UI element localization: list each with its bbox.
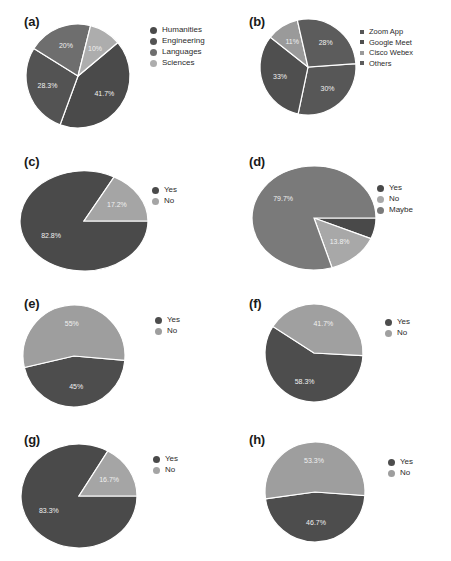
slice-value-label: 82.8%	[41, 232, 61, 239]
slice-value-label: 55%	[65, 320, 79, 327]
slice-value-label: 11%	[285, 38, 299, 45]
legend-item-label: Humanities	[162, 26, 202, 34]
legend-b: Zoom AppGoogle MeetCisco WebexOthers	[360, 28, 413, 67]
legend-item-label: Sciences	[162, 59, 194, 67]
slice-value-label: 53.3%	[304, 457, 324, 464]
legend-item-label: Others	[369, 60, 392, 68]
slice-value-label: 33%	[273, 73, 287, 80]
pie-chart-g: 83.3%16.7%	[19, 442, 139, 550]
legend-item-label: Yes	[167, 316, 180, 324]
slice-value-label: 79.7%	[273, 195, 293, 202]
slice-value-label: 41.7%	[94, 90, 114, 97]
legend-e: YesNo	[155, 316, 180, 335]
pie-slice	[265, 492, 364, 542]
pie-svg-d: 13.8%79.7%	[250, 164, 378, 272]
legend-item-yes[interactable]: Yes	[152, 186, 177, 194]
legend-item-label: Yes	[389, 184, 402, 192]
legend-swatch-icon	[360, 40, 364, 44]
legend-item-yes[interactable]: Yes	[155, 316, 180, 324]
pie-svg-h: 46.7%53.3%	[263, 440, 367, 544]
legend-item-no[interactable]: No	[155, 327, 180, 335]
legend-item-label: No	[164, 197, 174, 205]
legend-swatch-icon	[377, 185, 384, 192]
legend-item-engineering[interactable]: Engineering	[150, 37, 205, 45]
legend-item-yes[interactable]: Yes	[377, 184, 413, 192]
legend-swatch-icon	[155, 328, 162, 335]
legend-item-label: Maybe	[389, 206, 413, 214]
legend-item-no[interactable]: No	[385, 329, 410, 337]
legend-item-label: Zoom App	[369, 28, 403, 36]
slice-value-label: 20%	[59, 42, 73, 49]
legend-item-label: Google Meet	[369, 39, 412, 47]
slice-value-label: 10%	[88, 45, 102, 52]
legend-swatch-icon	[385, 319, 392, 326]
legend-item-sciences[interactable]: Sciences	[150, 59, 205, 67]
panel-d: (d) 13.8%79.7% YesNoMaybe	[225, 140, 451, 285]
legend-a: HumanitiesEngineeringLanguagesSciences	[150, 26, 205, 67]
pie-svg-a: 41.7%28.3%20%10%	[24, 22, 132, 130]
legend-g: YesNo	[153, 455, 178, 474]
legend-h: YesNo	[388, 458, 413, 477]
legend-item-label: No	[167, 327, 177, 335]
legend-item-no[interactable]: No	[388, 469, 413, 477]
legend-item-yes[interactable]: Yes	[153, 455, 178, 463]
legend-swatch-icon	[150, 60, 157, 67]
legend-item-cisco-webex[interactable]: Cisco Webex	[360, 49, 413, 57]
legend-item-yes[interactable]: Yes	[388, 458, 413, 466]
legend-swatch-icon	[360, 30, 364, 34]
panel-f: (f) 58.3%41.7% YesNo	[225, 285, 451, 420]
legend-item-zoom-app[interactable]: Zoom App	[360, 28, 413, 36]
legend-item-no[interactable]: No	[152, 197, 177, 205]
legend-item-languages[interactable]: Languages	[150, 48, 205, 56]
legend-swatch-icon	[153, 456, 160, 463]
legend-swatch-icon	[388, 459, 395, 466]
pie-chart-f: 58.3%41.7%	[263, 302, 365, 404]
legend-swatch-icon	[152, 187, 159, 194]
pie-svg-e: 45%55%	[21, 303, 127, 409]
pie-chart-a: 41.7%28.3%20%10%	[24, 22, 132, 130]
legend-item-google-meet[interactable]: Google Meet	[360, 39, 413, 47]
legend-d: YesNoMaybe	[377, 184, 413, 214]
legend-item-yes[interactable]: Yes	[385, 318, 410, 326]
pie-chart-e: 45%55%	[21, 303, 127, 409]
legend-swatch-icon	[377, 196, 384, 203]
pie-chart-c: 82.8%17.2%	[18, 169, 150, 273]
legend-swatch-icon	[385, 330, 392, 337]
pie-svg-b: 30%33%11%28%	[258, 17, 358, 117]
slice-value-label: 83.3%	[39, 507, 59, 514]
legend-swatch-icon	[155, 317, 162, 324]
legend-swatch-icon	[153, 467, 160, 474]
legend-item-label: Engineering	[162, 37, 205, 45]
legend-item-maybe[interactable]: Maybe	[377, 206, 413, 214]
legend-item-label: Yes	[165, 455, 178, 463]
slice-value-label: 30%	[321, 85, 335, 92]
legend-item-label: No	[165, 466, 175, 474]
legend-swatch-icon	[377, 207, 384, 214]
panel-h: (h) 46.7%53.3% YesNo	[225, 420, 451, 561]
pie-svg-g: 83.3%16.7%	[19, 442, 139, 550]
legend-swatch-icon	[150, 27, 157, 34]
legend-item-label: Yes	[164, 186, 177, 194]
panel-label-f: (f)	[249, 296, 261, 311]
panel-label-c: (c)	[24, 154, 39, 169]
legend-item-label: Languages	[162, 48, 202, 56]
panel-e: (e) 45%55% YesNo	[0, 285, 225, 420]
legend-item-label: No	[400, 469, 410, 477]
slice-value-label: 13.8%	[330, 238, 350, 245]
legend-item-label: Yes	[397, 318, 410, 326]
legend-item-humanities[interactable]: Humanities	[150, 26, 205, 34]
slice-value-label: 17.2%	[107, 201, 127, 208]
legend-swatch-icon	[360, 51, 364, 55]
pie-svg-c: 82.8%17.2%	[18, 169, 150, 273]
legend-item-others[interactable]: Others	[360, 60, 413, 68]
slice-value-label: 16.7%	[99, 476, 119, 483]
legend-f: YesNo	[385, 318, 410, 337]
legend-swatch-icon	[360, 61, 364, 65]
legend-item-label: Yes	[400, 458, 413, 466]
panel-b: (b) 30%33%11%28% Zoom AppGoogle MeetCisc…	[225, 0, 451, 140]
legend-item-no[interactable]: No	[153, 466, 178, 474]
pie-chart-figure-grid: (a) 41.7%28.3%20%10% HumanitiesEngineeri…	[0, 0, 451, 561]
slice-value-label: 45%	[69, 383, 83, 390]
slice-value-label: 58.3%	[295, 378, 315, 385]
legend-item-no[interactable]: No	[377, 195, 413, 203]
